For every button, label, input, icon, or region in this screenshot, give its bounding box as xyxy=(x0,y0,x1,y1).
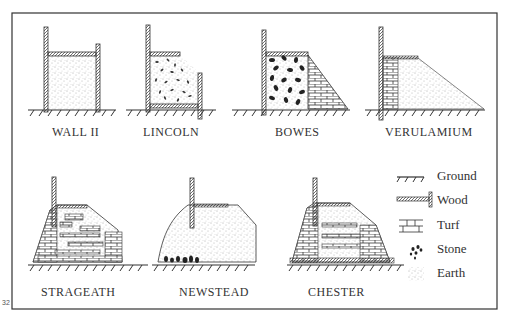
ground-hatch xyxy=(163,265,167,271)
ground-icon xyxy=(397,177,424,182)
ground-hatch xyxy=(48,265,52,271)
ground-hatch xyxy=(235,265,239,271)
ground-hatch xyxy=(164,110,168,116)
ground-hatch xyxy=(315,110,319,116)
ground-hatch xyxy=(252,110,256,116)
ground-hatch xyxy=(457,110,461,116)
earth-icon xyxy=(408,267,424,281)
ground-hatch xyxy=(138,265,142,271)
ground-hatch xyxy=(190,265,194,271)
ground-hatch xyxy=(324,110,328,116)
ground-hatch xyxy=(379,265,383,271)
ground-hatch xyxy=(102,265,106,271)
ground-hatch xyxy=(75,265,79,271)
stone xyxy=(269,58,275,62)
ground-hatch xyxy=(129,265,133,271)
legend-label-ground: Ground xyxy=(437,168,477,184)
ground-hatch xyxy=(270,110,274,116)
ground-hatch xyxy=(217,265,221,271)
ground-hatch xyxy=(325,265,329,271)
earth-fill xyxy=(48,55,98,110)
ground-hatch xyxy=(352,265,356,271)
ground-hatch xyxy=(226,265,230,271)
ground-hatch xyxy=(316,265,320,271)
ground-hatch xyxy=(120,265,124,271)
ground-hatch xyxy=(361,265,365,271)
ground-hatch xyxy=(102,110,106,116)
ground-hatch xyxy=(243,110,247,116)
panel-label-lincoln: LINCOLN xyxy=(143,125,199,140)
ground-hatch xyxy=(199,265,203,271)
ground-hatch xyxy=(30,265,34,271)
ground-hatch xyxy=(154,265,158,271)
ground-hatch xyxy=(394,110,398,116)
ground-hatch xyxy=(155,110,159,116)
ground-hatch xyxy=(388,265,392,271)
ground-hatch xyxy=(234,110,238,116)
panel-strageath xyxy=(33,177,122,262)
panel-bowes xyxy=(262,30,348,115)
wood-walkway xyxy=(48,52,96,56)
ground-hatch xyxy=(39,265,43,271)
ground-hatch xyxy=(30,110,34,116)
wood-post xyxy=(96,44,100,112)
ground-hatch xyxy=(334,265,338,271)
ground-hatch xyxy=(181,265,185,271)
ground-hatch xyxy=(84,265,88,271)
panel-label-bowes: BOWES xyxy=(275,125,320,140)
ground-hatch xyxy=(208,265,212,271)
panel-label-wall-ii: WALL II xyxy=(52,125,99,140)
ground-hatch xyxy=(448,110,452,116)
page-number: 32 xyxy=(2,299,10,306)
panel-wall-ii xyxy=(44,27,100,112)
stone xyxy=(155,61,159,63)
panel-chester xyxy=(290,178,394,263)
ground-hatch xyxy=(475,110,479,116)
turf-icon xyxy=(399,220,423,232)
panel-label-verulamium: VERULAMIUM xyxy=(385,125,473,140)
ground-hatch xyxy=(367,110,371,116)
legend-label-turf: Turf xyxy=(437,217,460,233)
ground-hatch xyxy=(385,110,389,116)
legend-label-wood: Wood xyxy=(437,192,468,208)
ground-hatch xyxy=(370,265,374,271)
rampart-sections-figure xyxy=(0,0,507,320)
panel-verulamium xyxy=(379,27,484,120)
ground-hatch xyxy=(439,110,443,116)
ground-hatch xyxy=(75,110,79,116)
ground-hatch xyxy=(173,110,177,116)
ground-hatch xyxy=(397,265,401,271)
ground-hatch xyxy=(84,110,88,116)
ground-hatch xyxy=(298,265,302,271)
stone-icon xyxy=(410,245,423,260)
ground-hatch xyxy=(111,265,115,271)
panel-newstead xyxy=(158,178,256,263)
ground-hatch xyxy=(48,110,52,116)
ground-hatch xyxy=(343,265,347,271)
ground-hatch xyxy=(466,110,470,116)
ground-hatch xyxy=(279,110,283,116)
ground-hatch xyxy=(111,110,115,116)
ground-hatch xyxy=(182,110,186,116)
ground-hatch xyxy=(191,110,195,116)
ground-hatch xyxy=(244,265,248,271)
ground-hatch xyxy=(57,110,61,116)
panel-label-newstead: NEWSTEAD xyxy=(179,285,249,300)
ground-hatch xyxy=(307,265,311,271)
panel-label-strageath: STRAGEATH xyxy=(41,285,116,300)
ground-hatch xyxy=(93,265,97,271)
panel-label-chester: CHESTER xyxy=(308,285,365,300)
legend-label-stone: Stone xyxy=(437,241,467,257)
ground-hatch xyxy=(39,110,43,116)
legend-label-earth: Earth xyxy=(437,265,465,281)
ground-hatch xyxy=(333,110,337,116)
ground-hatch xyxy=(66,265,70,271)
ground-hatch xyxy=(412,110,416,116)
ground-hatch xyxy=(137,110,141,116)
ground-hatch xyxy=(172,265,176,271)
ground-hatch xyxy=(128,110,132,116)
ground-hatch xyxy=(306,110,310,116)
ground-hatch xyxy=(421,110,425,116)
ground-hatch xyxy=(342,110,346,116)
ground-hatch xyxy=(297,110,301,116)
